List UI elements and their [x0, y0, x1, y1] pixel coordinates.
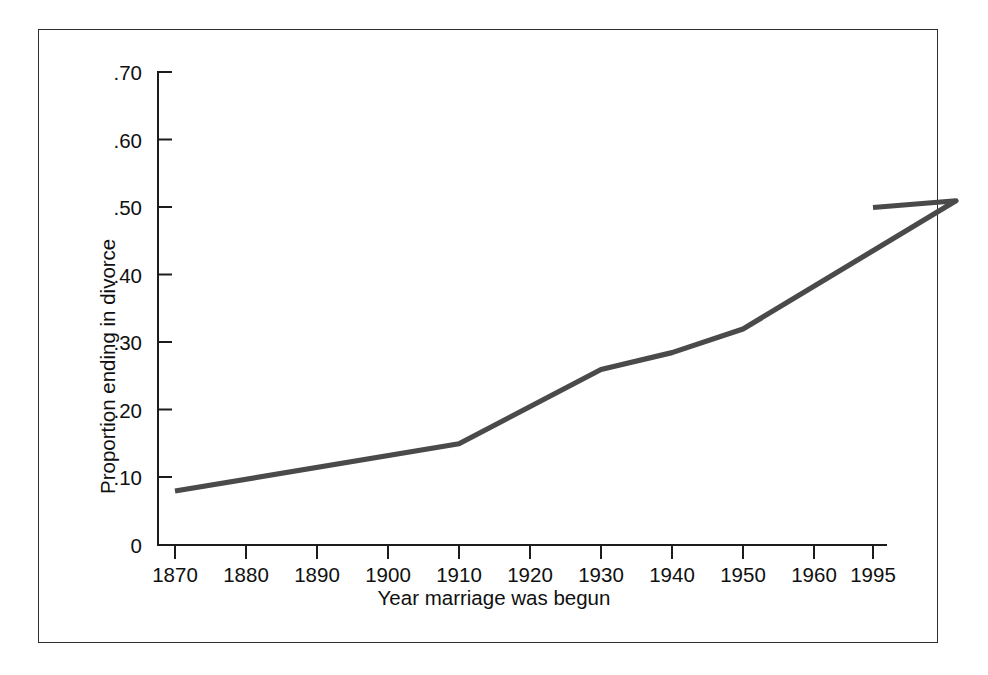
y-tick-label-060: .60	[78, 129, 142, 153]
chart-figure: .70 .60 .50 .40 .30 .20 .10 0 1870 1880 …	[0, 0, 988, 675]
x-axis-ticks	[175, 545, 873, 559]
x-tick-label-1940: 1940	[632, 563, 712, 587]
divorce-proportion-line	[175, 201, 956, 491]
y-axis-title: Proportion ending in divorce	[96, 239, 120, 494]
x-tick-label-1920: 1920	[490, 563, 570, 587]
x-tick-label-1930: 1930	[561, 563, 641, 587]
x-tick-label-1995: 1995	[833, 563, 913, 587]
y-tick-label-070: .70	[78, 61, 142, 85]
x-tick-label-1890: 1890	[277, 563, 357, 587]
x-axis-title: Year marriage was begun	[0, 586, 988, 610]
y-tick-label-0: 0	[78, 534, 142, 558]
x-tick-label-1910: 1910	[419, 563, 499, 587]
x-tick-label-1900: 1900	[348, 563, 428, 587]
y-tick-label-050: .50	[78, 196, 142, 220]
y-axis-ticks	[158, 72, 172, 477]
x-tick-label-1870: 1870	[135, 563, 215, 587]
x-tick-label-1880: 1880	[206, 563, 286, 587]
x-tick-label-1950: 1950	[703, 563, 783, 587]
